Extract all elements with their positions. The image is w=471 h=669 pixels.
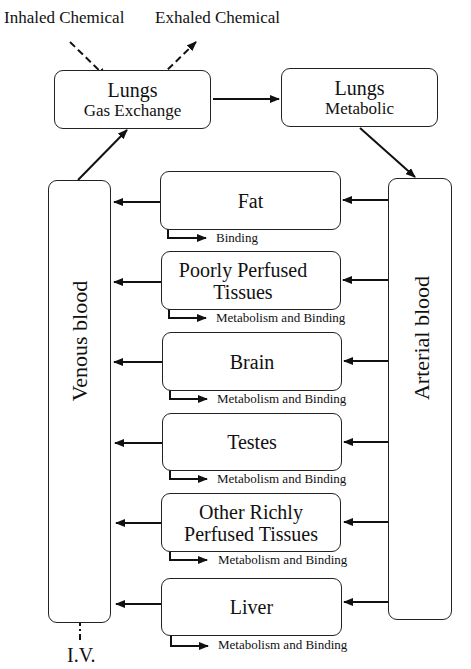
compartment-title: Other Richly [199, 501, 303, 523]
lungs-gas-title: Lungs [108, 79, 158, 101]
compartment-brain: Brain [162, 332, 342, 391]
compartment-title: Testes [227, 431, 277, 453]
side-label: Metabolism and Binding [217, 391, 346, 407]
side-label: Metabolism and Binding [216, 310, 345, 326]
lungs-gas-subtitle: Gas Exchange [84, 101, 182, 120]
exhaled-chemical-label: Exhaled Chemical [155, 8, 280, 27]
compartment-title-line2: Tissues [213, 281, 272, 303]
compartment-title: Brain [230, 351, 274, 373]
compartment-other-richly-perfused: Other Richly Perfused Tissues [161, 493, 341, 552]
compartment-fat: Fat [160, 171, 341, 230]
compartment-title-line2: Perfused Tissues [184, 523, 318, 545]
side-label: Binding [216, 230, 258, 246]
side-label: Metabolism and Binding [218, 637, 347, 653]
compartment-poorly-perfused: Poorly Perfused Tissues [161, 251, 341, 310]
compartment-liver: Liver [161, 578, 342, 636]
lungs-met-subtitle: Metabolic [325, 99, 394, 118]
compartment-testes: Testes [162, 413, 342, 471]
side-label: Metabolism and Binding [218, 552, 347, 568]
arterial-blood-label: Arterial blood [409, 246, 435, 430]
venous-blood-label: Venous blood [67, 249, 93, 433]
lungs-metabolic-box: Lungs Metabolic [281, 68, 438, 127]
iv-label: I.V. [67, 644, 96, 666]
lungs-gas-exchange-box: Lungs Gas Exchange [54, 70, 211, 129]
inhaled-chemical-label: Inhaled Chemical [4, 8, 124, 27]
side-label: Metabolism and Binding [217, 471, 346, 487]
compartment-title: Liver [230, 596, 273, 618]
lungs-met-title: Lungs [335, 77, 385, 99]
compartment-title: Fat [238, 190, 264, 212]
compartment-title: Poorly Perfused [179, 259, 307, 281]
